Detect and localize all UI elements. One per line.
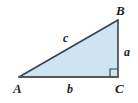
vertex-label-b: B	[116, 4, 125, 17]
geometry-figure: A B C a b c	[0, 0, 138, 103]
side-label-c: c	[63, 32, 68, 44]
vertex-label-c: C	[115, 82, 124, 95]
side-label-b: b	[67, 83, 73, 95]
vertex-label-a: A	[13, 82, 22, 95]
side-label-a: a	[124, 46, 130, 58]
